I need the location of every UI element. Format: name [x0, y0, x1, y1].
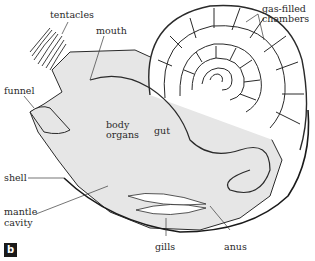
label-mantle: mantle [4, 207, 37, 217]
label-gills: gills [155, 242, 175, 252]
label-organs: organs [106, 130, 139, 140]
label-funnel: funnel [4, 86, 35, 96]
label-mouth: mouth [96, 26, 127, 36]
panel-label-badge: b [4, 243, 17, 257]
label-anus: anus [224, 242, 247, 252]
label-shell: shell [4, 173, 27, 183]
label-gut: gut [154, 126, 170, 136]
label-tentacles: tentacles [50, 10, 94, 20]
label-cavity: cavity [4, 218, 33, 228]
label-chambers: chambers [262, 14, 309, 24]
